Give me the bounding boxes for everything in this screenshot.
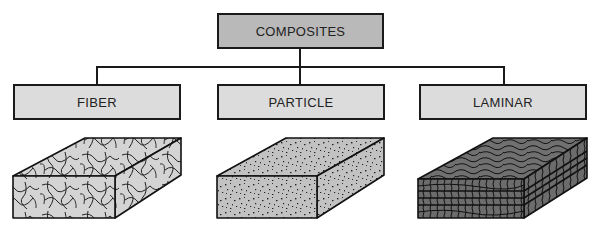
composite-blocks-illustration (0, 0, 600, 233)
particle-block (217, 138, 384, 218)
laminar-block (418, 138, 587, 218)
fiber-block (13, 138, 181, 218)
